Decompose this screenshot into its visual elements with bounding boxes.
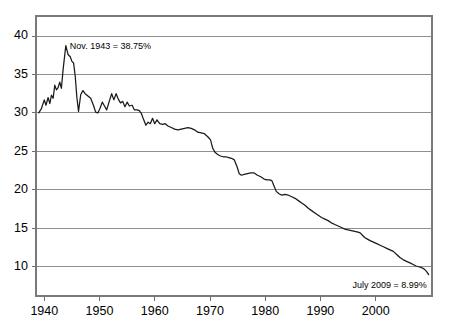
x-axis-label-2000: 2000	[362, 304, 390, 318]
x-axis-label-1940: 1940	[30, 304, 58, 318]
y-axis-label-15: 15	[14, 221, 28, 235]
peak-annotation: Nov. 1943 = 38.75%	[70, 41, 151, 51]
y-axis-label-35: 35	[14, 67, 28, 81]
y-axis-label-10: 10	[14, 259, 28, 273]
x-axis-label-1980: 1980	[251, 304, 279, 318]
union-membership-line-chart: 40353025201510 1940195019601970198019902…	[0, 0, 449, 330]
y-axis-label-30: 30	[14, 105, 28, 119]
x-axis-label-1970: 1970	[196, 304, 224, 318]
y-axis-tickmarks	[32, 36, 36, 267]
final-annotation: July 2009 = 8.99%	[352, 280, 426, 290]
x-axis-label-1990: 1990	[306, 304, 334, 318]
plot-background	[36, 16, 432, 296]
y-axis-labels: 40353025201510	[14, 28, 28, 273]
chart-container: 40353025201510 1940195019601970198019902…	[0, 0, 449, 330]
x-axis-label-1950: 1950	[86, 304, 114, 318]
x-axis-label-1960: 1960	[141, 304, 169, 318]
x-axis-labels: 1940195019601970198019902000	[30, 304, 389, 318]
x-axis-tickmarks	[44, 296, 375, 301]
y-axis-label-20: 20	[14, 182, 28, 196]
y-axis-label-25: 25	[14, 144, 28, 158]
y-axis-label-40: 40	[14, 28, 28, 42]
